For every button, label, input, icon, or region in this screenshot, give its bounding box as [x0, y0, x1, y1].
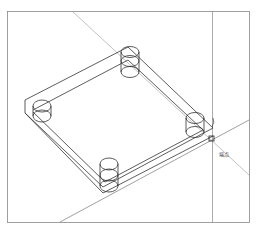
corner-posts [33, 47, 204, 193]
frame-edges [25, 47, 213, 193]
drawing-frame [8, 12, 250, 223]
wireframe-drawing [0, 0, 258, 231]
osnap-tooltip: 端点 [219, 150, 229, 157]
cad-drawing-viewport[interactable]: 端点 [0, 0, 258, 231]
base-construction-line [60, 120, 249, 222]
